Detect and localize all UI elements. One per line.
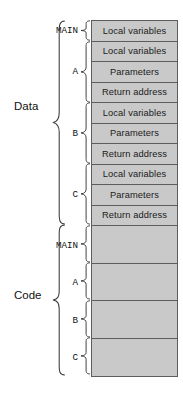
memory-cell-data-b-2: Return address — [92, 144, 177, 165]
section-label-code: Code — [14, 289, 42, 301]
group-label-code-main: MAIN — [46, 240, 78, 251]
diagram-canvas: Local variablesLocal variablesParameters… — [0, 0, 183, 397]
group-label-data-main: MAIN — [46, 25, 78, 36]
section-label-data: Data — [14, 100, 38, 112]
memory-cell-data-a-1: Parameters — [92, 62, 177, 83]
memory-cell-data-c-2: Return address — [92, 206, 177, 227]
brace-data-group-main — [80, 20, 91, 41]
memory-cell-data-b-0: Local variables — [92, 103, 177, 124]
memory-cell-data-main-0: Local variables — [92, 21, 177, 42]
group-label-data-c: C — [46, 189, 78, 200]
memory-cell-data-c-0: Local variables — [92, 165, 177, 186]
group-label-code-c: C — [46, 352, 78, 363]
memory-cell-code-b-0 — [92, 301, 177, 339]
memory-cell-data-a-0: Local variables — [92, 42, 177, 63]
memory-cell-data-b-1: Parameters — [92, 124, 177, 145]
brace-data-group-b — [80, 102, 91, 164]
group-label-data-a: A — [46, 66, 78, 77]
brace-data-group-a — [80, 41, 91, 103]
group-label-code-b: B — [46, 315, 78, 326]
memory-cell-data-c-1: Parameters — [92, 185, 177, 206]
memory-cell-code-a-0 — [92, 264, 177, 302]
brace-data-group-c — [80, 163, 91, 225]
brace-code-group-c — [80, 337, 91, 375]
memory-cell-data-a-2: Return address — [92, 83, 177, 104]
brace-code-group-b — [80, 300, 91, 338]
brace-code-group-a — [80, 262, 91, 300]
memory-cell-code-c-0 — [92, 339, 177, 377]
group-label-data-b: B — [46, 128, 78, 139]
group-label-code-a: A — [46, 277, 78, 288]
brace-code-group-main — [80, 225, 91, 263]
memory-cell-code-main-0 — [92, 226, 177, 264]
memory-column: Local variablesLocal variablesParameters… — [91, 20, 178, 377]
